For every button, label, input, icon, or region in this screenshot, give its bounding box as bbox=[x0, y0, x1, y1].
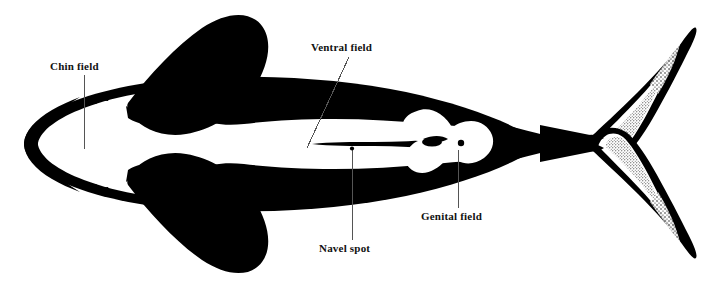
navel-spot-marker bbox=[350, 146, 354, 150]
label-chin-field: Chin field bbox=[50, 61, 99, 72]
label-ventral-field: Ventral field bbox=[311, 42, 372, 53]
mammary-slit-left bbox=[422, 137, 442, 146]
label-genital-field: Genital field bbox=[421, 211, 482, 222]
anus-spot bbox=[458, 140, 464, 146]
whale-ventral-diagram: Chin field Ventral field Genital field N… bbox=[0, 0, 713, 288]
tail-fluke bbox=[578, 28, 697, 259]
label-navel-spot: Navel spot bbox=[319, 243, 370, 254]
